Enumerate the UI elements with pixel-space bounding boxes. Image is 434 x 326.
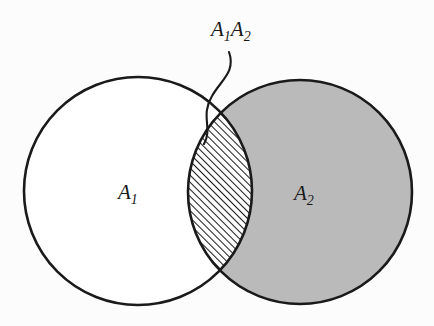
intersection-label-a-2-sub: 2 <box>244 29 251 44</box>
venn-diagram-figure: A1A2 A1 A2 <box>0 0 434 326</box>
intersection-label-a-1-sub: 1 <box>224 29 231 44</box>
set-a1-label-base: A <box>116 180 131 204</box>
venn-diagram-canvas: A1A2 A1 A2 <box>0 0 434 326</box>
intersection-label-a-2-base: A <box>229 17 244 41</box>
intersection-label-a-1-base: A <box>209 17 224 41</box>
set-a2-label-base: A <box>292 181 307 205</box>
set-a1-label-sub: 1 <box>131 192 138 207</box>
set-a2-label-sub: 2 <box>307 193 314 208</box>
